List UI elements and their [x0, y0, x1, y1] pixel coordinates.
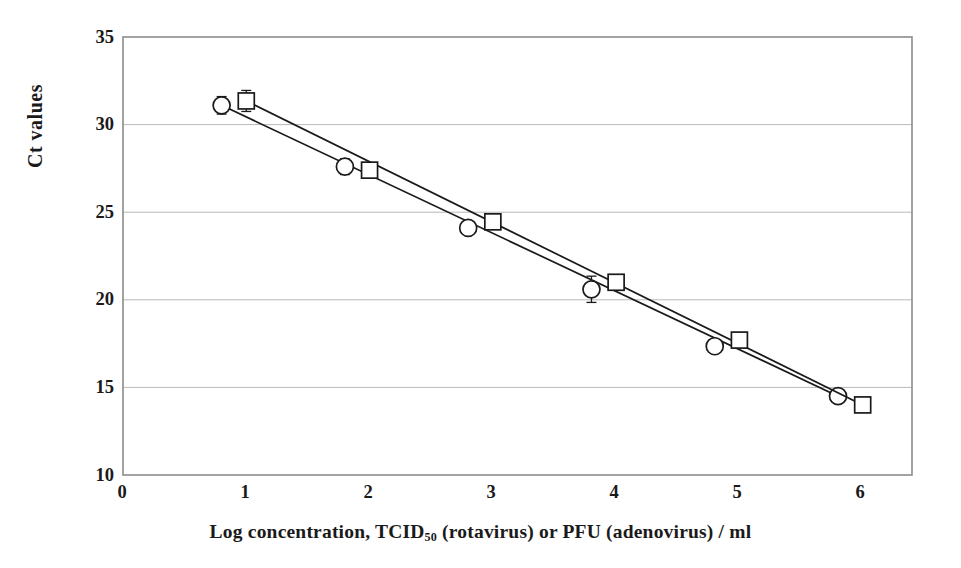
data-point	[731, 332, 747, 348]
x-axis-title-subscript: 50	[425, 530, 437, 544]
trend-line-adenovirus	[246, 101, 862, 405]
data-point	[336, 158, 353, 175]
series-adenovirus	[238, 90, 870, 412]
marker-circle	[213, 97, 230, 114]
marker-circle	[706, 338, 723, 355]
data-point	[855, 397, 871, 413]
x-axis-tick-labels: 0 1 2 3 4 5 6	[0, 483, 961, 511]
x-tick-label: 6	[840, 483, 880, 502]
data-point	[706, 338, 723, 355]
x-axis-title-suffix: (rotavirus) or PFU (adenovirus) / ml	[437, 521, 751, 542]
x-tick-label: 2	[348, 483, 388, 502]
data-point	[608, 274, 624, 290]
data-series-layer	[213, 90, 871, 412]
data-point	[583, 276, 600, 302]
data-point	[485, 214, 501, 230]
x-axis-title-prefix: Log concentration, TCID	[210, 521, 425, 542]
marker-square	[362, 162, 378, 178]
chart-figure: Ct values 35 30 25 20 15 10 0 1 2 3 4 5 …	[0, 0, 961, 568]
trend-line-rotavirus	[222, 105, 838, 396]
data-point	[460, 219, 477, 236]
marker-square	[608, 274, 624, 290]
data-point	[213, 97, 230, 115]
x-tick-label: 5	[717, 483, 757, 502]
marker-square	[485, 214, 501, 230]
series-rotavirus	[213, 97, 846, 405]
x-tick-label: 0	[102, 483, 142, 502]
x-tick-label: 3	[471, 483, 511, 502]
data-point	[362, 162, 378, 178]
x-tick-label: 1	[225, 483, 265, 502]
x-axis-title: Log concentration, TCID50 (rotavirus) or…	[0, 521, 961, 545]
data-point	[238, 90, 254, 111]
marker-square	[731, 332, 747, 348]
gridlines	[123, 125, 912, 388]
marker-circle	[336, 158, 353, 175]
x-tick-label: 4	[594, 483, 634, 502]
marker-square	[855, 397, 871, 413]
marker-square	[238, 93, 254, 109]
marker-circle	[460, 219, 477, 236]
marker-circle	[583, 281, 600, 298]
